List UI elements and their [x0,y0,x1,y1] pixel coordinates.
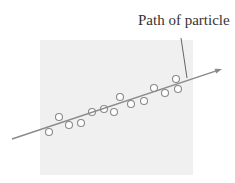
droplet-circle [46,129,53,136]
droplet-circle [173,76,180,83]
droplet-circle [56,114,63,121]
droplet-circle [162,90,169,97]
droplet-circle [78,120,85,127]
droplet-circle [141,98,148,105]
droplet-circle [128,101,135,108]
droplet-circle [175,86,182,93]
droplet-circle [111,109,118,116]
droplet-circle [117,94,124,101]
path-of-particle-label: Path of particle [138,12,230,29]
arrowhead-icon [215,69,222,74]
droplet-circle [66,122,73,129]
detector-panel [40,40,193,175]
